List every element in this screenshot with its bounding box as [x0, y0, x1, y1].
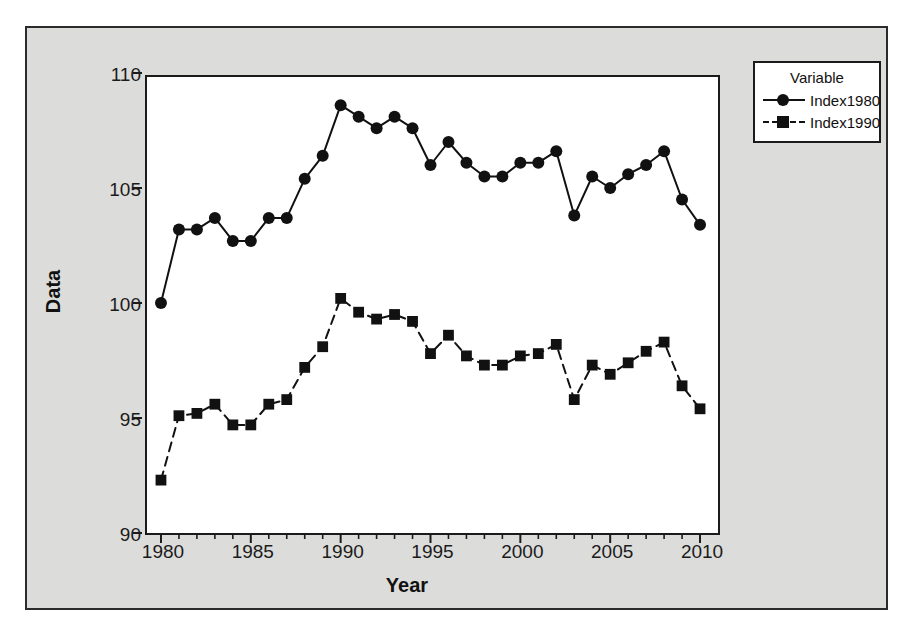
- legend-key-square-icon: [763, 112, 805, 132]
- x-tick-label: 1980: [142, 541, 184, 563]
- y-axis-tick-labels: 9095100105110: [85, 28, 141, 612]
- figure-region: 9095100105110 19801985199019952000200520…: [25, 26, 888, 610]
- x-tick-label: 2010: [681, 541, 723, 563]
- legend-box: Variable Index1980 Index1990: [753, 61, 881, 143]
- x-tick-label: 2005: [591, 541, 633, 563]
- legend-entry-index1980[interactable]: Index1980: [763, 89, 871, 111]
- plot-panel: [145, 75, 720, 535]
- x-tick-label: 1990: [322, 541, 364, 563]
- y-tick-label: 95: [120, 409, 141, 431]
- x-tick-label: 1995: [411, 541, 453, 563]
- legend-entry-index1990[interactable]: Index1990: [763, 111, 871, 133]
- y-tick-label: 110: [111, 64, 141, 86]
- y-tick-label: 105: [109, 179, 141, 201]
- x-axis-title: Year: [27, 574, 787, 597]
- legend-label-index1990: Index1990: [805, 114, 880, 131]
- legend-label-index1980: Index1980: [805, 92, 880, 109]
- legend-key-circle-icon: [763, 90, 805, 110]
- y-tick-label: 100: [109, 294, 141, 316]
- x-axis-tick-labels: 1980198519901995200020052010: [27, 541, 890, 571]
- x-tick-label: 2000: [501, 541, 543, 563]
- chart-page: 9095100105110 19801985199019952000200520…: [0, 0, 910, 644]
- x-tick-label: 1985: [232, 541, 274, 563]
- y-axis-title: Data: [42, 252, 65, 332]
- legend-title: Variable: [763, 69, 871, 86]
